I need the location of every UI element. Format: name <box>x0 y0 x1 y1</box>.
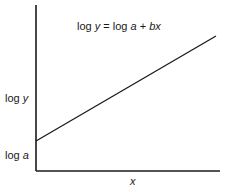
intercept-label-var: a <box>23 149 29 161</box>
equation-bx: bx <box>149 20 161 32</box>
y-axis-label: log y <box>5 92 28 104</box>
intercept-label: log a <box>5 149 29 161</box>
x-axis-label: x <box>130 175 136 187</box>
y-axis-label-prefix: log <box>5 92 23 104</box>
equation-lhs: log <box>77 20 92 32</box>
intercept-label-prefix: log <box>5 149 23 161</box>
regression-line <box>36 36 216 141</box>
y-axis-label-var: y <box>23 92 29 104</box>
equation-label: log y = log a + bx <box>77 20 161 32</box>
equation-plus: + <box>137 20 150 32</box>
equation-equals: = log <box>100 20 130 32</box>
